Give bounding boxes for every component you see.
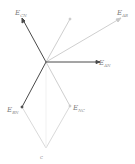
vector-e-cn bbox=[22, 18, 46, 62]
label-e-ab: EAB bbox=[116, 9, 128, 18]
vector-e-bn bbox=[22, 62, 46, 107]
label-e-nc: ENC bbox=[72, 104, 85, 113]
construction-line-bn-c bbox=[22, 107, 46, 148]
vector-unlabeled bbox=[46, 19, 70, 62]
vector-e-ab bbox=[46, 18, 121, 62]
vector-e-bn-tip bbox=[21, 106, 23, 108]
label-e-bn: EBN bbox=[6, 106, 19, 115]
arrowhead-e-ab bbox=[116, 18, 121, 22]
vector-e-nc bbox=[46, 62, 70, 106]
label-e-an: EAN bbox=[98, 59, 111, 68]
label-c: C bbox=[40, 155, 43, 160]
phasor-diagram: ECN EAB EAN EBN ENC C bbox=[0, 0, 135, 164]
construction-line-nc-c bbox=[46, 106, 70, 148]
label-e-cn: ECN bbox=[14, 9, 27, 18]
vector-e-nc-tip bbox=[69, 105, 71, 107]
construction-lines bbox=[22, 62, 70, 148]
vector-unlabeled-tip bbox=[69, 18, 71, 20]
